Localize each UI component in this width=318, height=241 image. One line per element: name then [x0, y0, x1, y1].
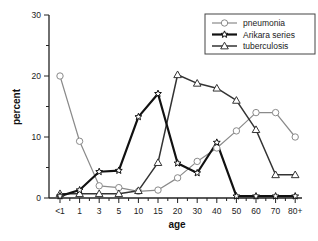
x-tick-label: 60 [251, 206, 261, 216]
x-tick-label: 80+ [288, 206, 302, 216]
circle-marker-icon [96, 183, 102, 189]
x-tick-label: 40 [212, 206, 222, 216]
circle-marker-icon [253, 109, 259, 115]
circle-marker-icon [76, 138, 82, 144]
legend-label: tuberculosis [243, 41, 288, 51]
legend-label: pneumonia [243, 18, 285, 28]
x-tick-label: 3 [97, 206, 102, 216]
x-tick-label: 15 [153, 206, 163, 216]
triangle-marker-icon [174, 71, 182, 78]
circle-marker-icon [174, 175, 180, 181]
triangle-marker-icon [233, 97, 241, 104]
y-tick-label: 20 [32, 71, 42, 81]
circle-marker-icon [233, 128, 239, 134]
star-marker-icon [115, 167, 122, 174]
x-tick-label: 20 [173, 206, 183, 216]
chart-legend: pneumoniaArikara seriestuberculosis [205, 14, 315, 54]
triangle-marker-icon [154, 159, 162, 166]
y-tick-label: 10 [32, 132, 42, 142]
chart-series [56, 71, 299, 199]
circle-marker-icon [194, 158, 200, 164]
circle-marker-icon [57, 73, 63, 79]
y-tick-label: 0 [36, 193, 41, 203]
x-tick-label: 70 [271, 206, 281, 216]
x-axis-label: age [168, 219, 186, 230]
circle-marker-icon [155, 187, 161, 193]
y-tick-label: 30 [32, 10, 42, 20]
x-tick-label: 50 [232, 206, 242, 216]
circle-marker-icon [221, 20, 227, 26]
line-chart: 0102030<1135101520304050607080+ pneumoni… [0, 0, 318, 241]
legend-label: Arikara series [243, 30, 295, 40]
circle-marker-icon [292, 134, 298, 140]
x-tick-label: <1 [55, 206, 65, 216]
x-tick-label: 30 [192, 206, 202, 216]
x-tick-label: 5 [116, 206, 121, 216]
y-axis-label: percent [11, 88, 22, 125]
x-tick-label: 10 [134, 206, 144, 216]
x-tick-label: 1 [77, 206, 82, 216]
circle-marker-icon [272, 109, 278, 115]
